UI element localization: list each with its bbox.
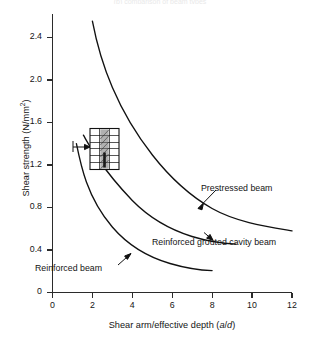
annotation-prestressed-beam: Prestressed beam bbox=[201, 183, 272, 193]
curve-prestressed-beam bbox=[92, 21, 292, 231]
figure-container: (b) comparison of beam types bbox=[0, 0, 319, 346]
annotation-reinforced-grouted-cavity-beam: Reinforced grouted cavity beam bbox=[152, 237, 276, 247]
reinforcement-bar bbox=[103, 153, 106, 168]
y-tick-label-2-4: 2.4 bbox=[18, 31, 42, 41]
annotation-leaders bbox=[61, 141, 216, 267]
x-tick-label-6: 6 bbox=[162, 300, 182, 310]
x-tick-label-12: 12 bbox=[282, 300, 302, 310]
x-tick-label-8: 8 bbox=[202, 300, 222, 310]
x-tick-label-10: 10 bbox=[242, 300, 262, 310]
x-tick-label-2: 2 bbox=[82, 300, 102, 310]
y-tick-label-0-4: 0.4 bbox=[18, 244, 42, 254]
x-axis-ticks bbox=[53, 293, 293, 299]
y-axis-title-suffix: ) bbox=[21, 100, 31, 103]
y-axis-title-prefix: Shear strength (N/mm bbox=[21, 106, 31, 196]
y-axis-title: Shear strength (N/mm2) bbox=[19, 83, 31, 213]
leader-prestressed-arrowhead bbox=[198, 204, 203, 210]
annotation-reinforced-beam: Reinforced beam bbox=[35, 263, 102, 273]
x-axis-title: Shear arm/effective depth (a/d) bbox=[52, 320, 292, 330]
x-axis-title-prefix: Shear arm/effective depth ( bbox=[109, 320, 220, 330]
chart-canvas bbox=[0, 0, 319, 346]
axis-lines bbox=[53, 14, 293, 293]
y-axis-ticks bbox=[47, 38, 53, 293]
x-tick-label-4: 4 bbox=[122, 300, 142, 310]
x-axis-title-suffix: ) bbox=[232, 320, 235, 330]
y-axis-title-superscript: 2 bbox=[19, 103, 26, 107]
y-tick-label-2-0: 2.0 bbox=[18, 74, 42, 84]
grouted-cavity-section-icon bbox=[90, 129, 119, 170]
x-tick-label-0: 0 bbox=[43, 300, 63, 310]
y-tick-label-0: 0 bbox=[18, 286, 42, 296]
